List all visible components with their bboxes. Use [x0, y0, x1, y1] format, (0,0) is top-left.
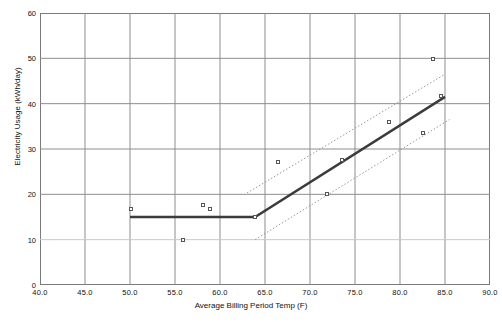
x-tick-label: 70.0 — [302, 288, 317, 297]
x-tick-label: 75.0 — [347, 288, 362, 297]
data-point-marker — [325, 192, 329, 196]
y-tick-label: 60 — [16, 9, 36, 18]
x-axis-label: Average Billing Period Temp (F) — [0, 301, 502, 310]
data-point-marker — [439, 94, 443, 98]
data-point-marker — [431, 57, 435, 61]
x-tick-label: 65.0 — [257, 288, 272, 297]
data-point-marker — [253, 215, 257, 219]
y-tick-label: 0 — [16, 281, 36, 290]
data-point-marker — [129, 207, 133, 211]
data-point-marker — [421, 131, 425, 135]
data-point-marker — [276, 160, 280, 164]
x-tick-label: 80.0 — [392, 288, 407, 297]
chart-container: 40.045.050.055.060.065.070.075.080.085.0… — [0, 0, 502, 322]
plot-area — [40, 13, 490, 285]
x-tick-label: 55.0 — [167, 288, 182, 297]
x-tick-label: 85.0 — [437, 288, 452, 297]
data-point-marker — [181, 238, 185, 242]
data-point-marker — [387, 120, 391, 124]
data-point-marker — [201, 203, 205, 207]
x-tick-label: 90.0 — [482, 288, 497, 297]
data-point-marker — [208, 207, 212, 211]
x-tick-label: 60.0 — [212, 288, 227, 297]
y-axis-label: Electricity Usage (kWh/day) — [13, 42, 22, 192]
x-tick-label: 50.0 — [122, 288, 137, 297]
data-point-marker — [340, 158, 344, 162]
x-tick-label: 45.0 — [77, 288, 92, 297]
y-tick-label: 10 — [16, 235, 36, 244]
